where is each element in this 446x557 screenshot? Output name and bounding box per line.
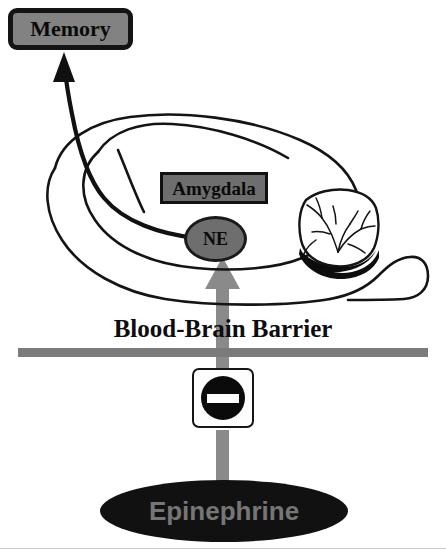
no-entry-disc [201,376,245,420]
ne-to-memory-arrow [53,52,196,238]
no-entry-bar [207,394,239,403]
ne-node[interactable]: NE [184,216,247,262]
epinephrine-label: Epinephrine [149,498,299,524]
memory-label: Memory [30,18,111,40]
blood-brain-barrier-bar [18,348,428,357]
no-entry-icon [192,368,254,428]
page-edge-line [0,548,446,549]
diagram-vector-layer [0,0,446,557]
amygdala-label: Amygdala [172,179,255,198]
diagram-canvas: Memory Amygdala NE Blood-Brain Barrier E… [0,0,446,557]
epinephrine-node[interactable]: Epinephrine [100,480,348,542]
memory-node[interactable]: Memory [8,8,133,50]
ne-label: NE [203,230,228,248]
cerebellum [299,189,379,279]
blood-brain-barrier-label: Blood-Brain Barrier [0,316,446,341]
epinephrine-to-barrier-arrow [216,430,229,482]
amygdala-node[interactable]: Amygdala [160,172,268,204]
